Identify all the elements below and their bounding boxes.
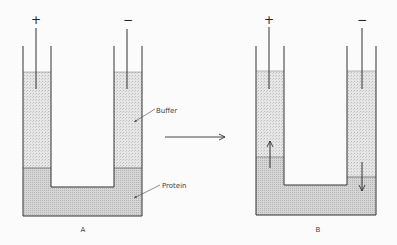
panel-b: + − B <box>256 13 376 234</box>
minus-symbol-a: − <box>123 13 133 27</box>
protein-label: Protein <box>162 182 187 190</box>
minus-symbol-b: − <box>357 13 367 27</box>
buffer-left-a <box>23 72 51 168</box>
panel-a: + − Buffer Protein A <box>23 13 187 234</box>
buffer-label: Buffer <box>156 107 177 115</box>
plus-symbol-a: + <box>31 13 41 27</box>
protein-a <box>23 168 142 216</box>
caption-b: B <box>316 226 321 234</box>
electrophoresis-diagram: + − Buffer Protein A + − B <box>0 0 397 245</box>
caption-a: A <box>81 226 86 234</box>
plus-symbol-b: + <box>264 13 274 27</box>
